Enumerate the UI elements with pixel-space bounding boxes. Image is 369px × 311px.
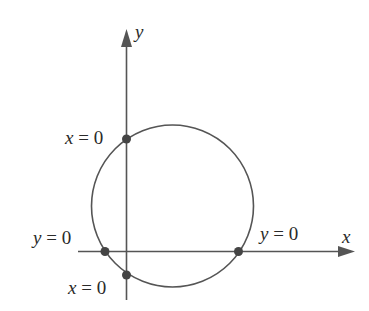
circle-curve (92, 125, 254, 287)
label-value: = 0 (268, 223, 298, 244)
point-x-intercept-right (234, 247, 243, 256)
x-axis-arrowhead-icon (338, 246, 355, 257)
label-y-intercept-bottom: x = 0 (67, 277, 106, 298)
y-axis-arrowhead-icon (121, 29, 132, 47)
label-var: y (258, 223, 269, 244)
label-x-intercept-left: y = 0 (31, 227, 71, 248)
label-y-intercept-top: x = 0 (64, 127, 103, 148)
label-value: = 0 (76, 277, 106, 298)
label-value: = 0 (73, 127, 103, 148)
y-axis-label: y (133, 21, 144, 42)
label-var: y (31, 227, 42, 248)
point-y-intercept-bottom (122, 271, 131, 280)
label-value: = 0 (41, 227, 71, 248)
x-axis-label: x (341, 226, 351, 247)
label-x-intercept-right: y = 0 (258, 223, 298, 244)
point-y-intercept-top (122, 135, 131, 144)
circle-intercepts-diagram: y x x = 0 x = 0 y = 0 y = 0 (0, 0, 369, 311)
point-x-intercept-left (101, 247, 110, 256)
